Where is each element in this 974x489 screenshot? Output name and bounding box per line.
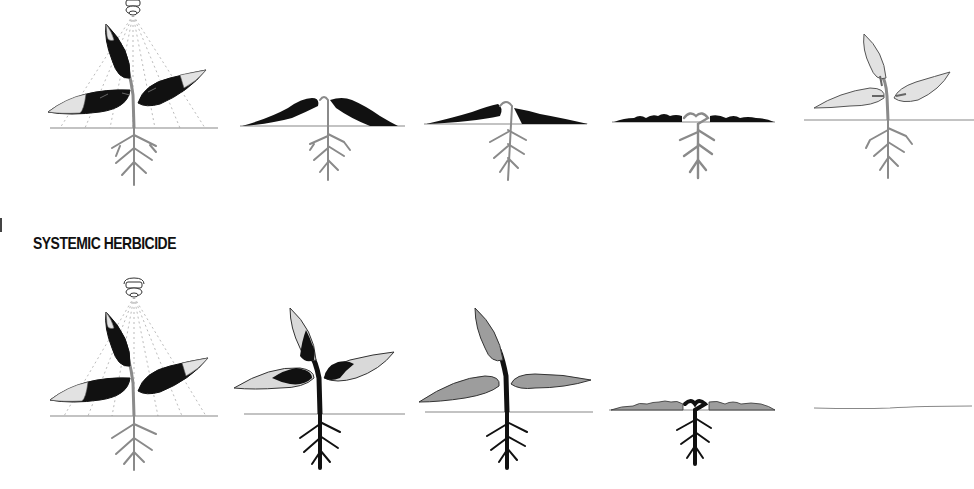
roots-dark (300, 414, 340, 468)
leaf-left-new (814, 88, 884, 108)
roots (680, 113, 714, 178)
stage-collapse-systemic (605, 278, 780, 478)
leaf-right-wilted (330, 98, 398, 126)
leaf-left-flat (426, 104, 502, 124)
stage-flattened-contact (422, 0, 592, 190)
roots (112, 416, 156, 470)
ground-line (814, 406, 972, 409)
stage-whole-plant-systemic (415, 278, 595, 478)
leaf-left (419, 376, 499, 402)
leaf-debris-right (710, 115, 774, 122)
leaf-right-tip (180, 70, 206, 88)
leaf-debris-left (614, 114, 682, 122)
edge-mark (0, 218, 2, 232)
leaf-right-flat (514, 108, 588, 124)
sprayer-nozzle-icon (126, 0, 140, 15)
stage-dead-systemic (800, 278, 974, 478)
leaf-left-tip (48, 94, 86, 113)
stage-regrowth-contact (800, 0, 974, 190)
stage-translocation-systemic (230, 278, 405, 478)
roots (112, 128, 156, 185)
leaf-debris-right (709, 401, 775, 410)
stage-collapsing-contact (240, 0, 410, 190)
leaf-debris-left (611, 401, 683, 410)
stage-shriveled-contact (610, 0, 780, 190)
stage-spray-systemic (40, 278, 220, 478)
stem-dark (310, 352, 320, 414)
leaf-left-wilted (242, 98, 318, 126)
roots (866, 120, 912, 178)
leaf-top (475, 308, 503, 361)
section-title-systemic-herbicide: SYSTEMIC HERBICIDE (33, 234, 176, 254)
roots-dark (487, 412, 527, 468)
sprayer-nozzle-icon (124, 278, 144, 297)
leaf-right-new (894, 72, 950, 102)
leaf-right (511, 374, 591, 389)
stage-spray-contact (40, 0, 220, 190)
leaf-top-new (864, 34, 886, 79)
